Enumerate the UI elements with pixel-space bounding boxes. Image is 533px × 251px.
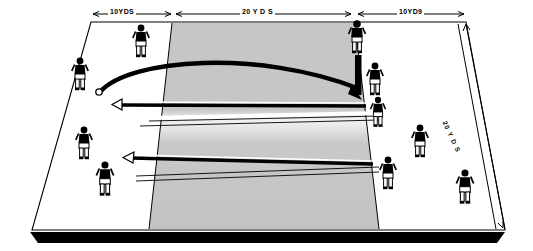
dimension-label-right-zone: 10YD9 bbox=[397, 8, 424, 16]
diagram-canvas bbox=[0, 0, 533, 251]
field-shadow bbox=[30, 232, 505, 243]
goal-post-bar bbox=[355, 55, 362, 95]
field-diagram: 10YDS 20 Y D S 10YD9 20 Y D S bbox=[0, 0, 533, 251]
center-zone bbox=[149, 23, 379, 229]
dimension-label-center-zone: 20 Y D S bbox=[240, 8, 275, 16]
ball bbox=[96, 89, 102, 95]
dimension-label-left-zone: 10YDS bbox=[108, 8, 136, 16]
